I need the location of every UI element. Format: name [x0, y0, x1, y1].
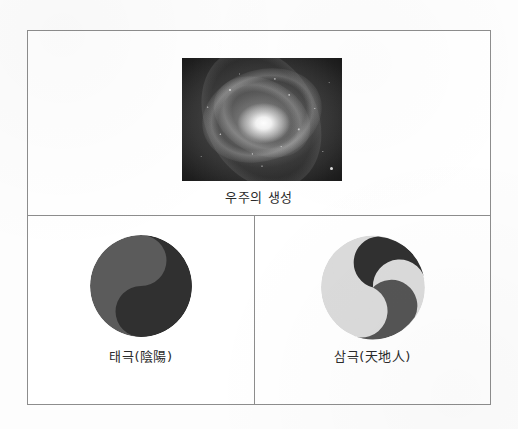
taegeuk-yin-yang-symbol: [89, 234, 193, 338]
galaxy-star-knots: [182, 58, 342, 181]
samgeuk-three-part-symbol: [319, 234, 427, 341]
galaxy-bright-dot: [330, 167, 333, 170]
caption-universe-creation: 우주의 생성: [28, 187, 490, 206]
samgeuk-cell: 삼극(天地人): [255, 216, 490, 404]
taegeuk-cell: 태극(陰陽): [28, 216, 255, 404]
scan-page: 우주의 생성: [0, 0, 518, 429]
figure-frame: 우주의 생성: [27, 30, 491, 405]
galaxy-photograph: [182, 58, 342, 181]
caption-taegeuk: 태극(陰陽): [28, 346, 254, 365]
universe-creation-cell: 우주의 생성: [28, 31, 490, 216]
caption-samgeuk: 삼극(天地人): [255, 346, 490, 365]
